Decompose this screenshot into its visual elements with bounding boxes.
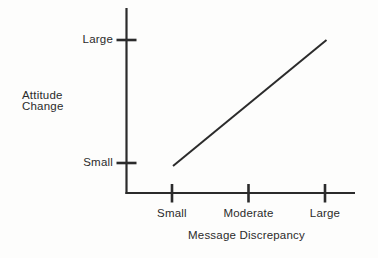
data-series-line [173, 40, 327, 166]
y-tick-label-large: Large [49, 34, 113, 45]
x-axis-title: Message Discrepancy [166, 230, 327, 241]
y-tick-label-small: Small [49, 157, 113, 168]
x-tick-label-small: Small [142, 208, 202, 219]
x-tick-label-large: Large [295, 208, 355, 219]
y-axis-title: Attitude Change [22, 90, 86, 112]
x-tick-label-moderate: Moderate [208, 208, 289, 219]
chart-canvas: Attitude Change Large Small Small Modera… [0, 0, 378, 258]
